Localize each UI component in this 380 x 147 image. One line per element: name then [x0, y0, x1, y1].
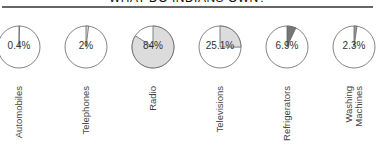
title-underline [2, 6, 373, 8]
category-label-telephones: Telephones [81, 86, 91, 135]
pie-telephones: 2% [64, 25, 108, 69]
percentage-label: 6.9% [265, 40, 309, 51]
percentage-label: 0.4% [0, 40, 41, 51]
category-label-radio: Radio [148, 86, 158, 111]
percentage-label: 84% [131, 40, 175, 51]
category-label-automobiles: Automobiles [14, 86, 24, 138]
pie-televisions: 25.1% [198, 25, 242, 69]
pie-automobiles: 0.4% [0, 25, 41, 69]
category-label-refrigerators: Refrigerators [282, 86, 292, 141]
chart-title: WHAT DO INDIANS OWN? [0, 0, 375, 5]
category-label-televisions: Televisions [215, 86, 225, 132]
percentage-label: 2.3% [332, 40, 376, 51]
percentage-label: 2% [64, 40, 108, 51]
pie-refrigerators: 6.9% [265, 25, 309, 69]
category-label-washing-machines: WashingMachines [344, 86, 364, 127]
pie-washing-machines: 2.3% [332, 25, 376, 69]
pie-radio: 84% [131, 25, 175, 69]
percentage-label: 25.1% [198, 40, 242, 51]
